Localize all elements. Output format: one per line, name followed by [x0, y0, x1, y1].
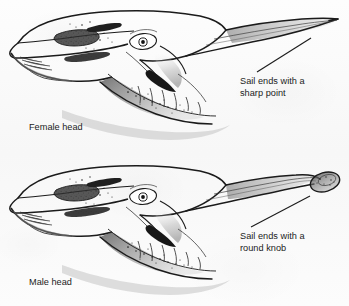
female-crest-annotation: Sail ends with a sharp point [240, 76, 344, 99]
female-crest-sharp-point [186, 18, 338, 56]
female-head-label: Female head [29, 122, 83, 133]
pterosaur-head-comparison-figure: Female head Male head Sail ends with a s… [0, 0, 349, 306]
male-crest-round-knob [186, 169, 342, 211]
male-crest-annotation: Sail ends with a round knob [240, 231, 344, 254]
leader-line-male [251, 196, 310, 227]
leader-line-female [257, 38, 311, 72]
male-head-label: Male head [29, 277, 72, 288]
pterosaur-illustration [0, 0, 349, 306]
